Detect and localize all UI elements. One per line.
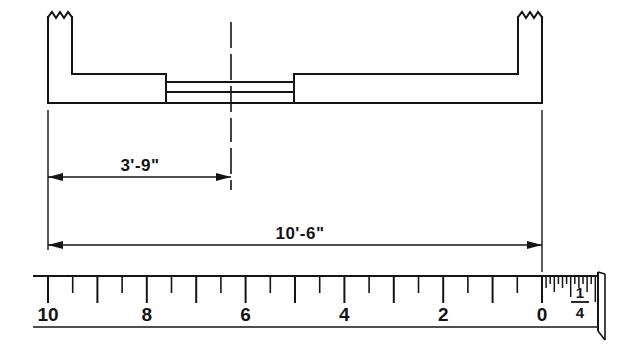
scale-fraction-numerator: 1 [576, 284, 584, 301]
ruler-label: 10 [37, 304, 58, 325]
ruler-label: 8 [142, 304, 153, 325]
ruler-label: 4 [339, 304, 350, 325]
ruler-label: 0 [537, 304, 548, 325]
dimension-label-upper: 3'-9" [120, 156, 159, 175]
dimension-label-lower: 10'-6" [275, 224, 324, 243]
scale-fraction-denominator: 4 [576, 304, 585, 321]
ruler-label: 2 [438, 304, 449, 325]
engineering-drawing: 3'-9" 10'-6" [0, 0, 642, 362]
ruler-label: 6 [240, 304, 251, 325]
drawing-canvas: 3'-9" 10'-6" [0, 0, 642, 362]
